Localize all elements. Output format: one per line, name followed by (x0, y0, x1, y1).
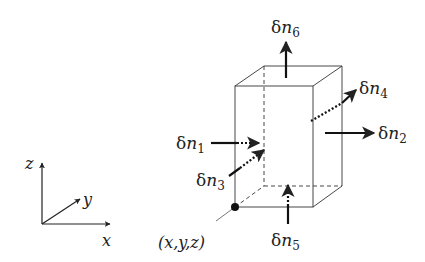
box-hidden-edge-bottom-left (235, 186, 264, 207)
flux-label-n3: δn3 (196, 170, 225, 193)
corner-point (231, 203, 239, 211)
box-top-face (235, 66, 342, 86)
flux-arrow-n3-dotted (240, 150, 264, 168)
box-front-face (235, 86, 313, 207)
flux-label-n5: δn5 (271, 230, 300, 253)
flux-label-n1: δn1 (176, 133, 205, 156)
y-axis-label: y (82, 190, 93, 209)
flux-arrow-n4-dotted (311, 103, 342, 121)
corner-label: (x,y,z) (158, 233, 205, 252)
x-axis-label: x (102, 231, 111, 250)
flux-label-n6: δn6 (271, 17, 300, 40)
flux-arrow-n3 (229, 168, 240, 176)
diagram-canvas: z x y (x,y,z) (0, 0, 425, 262)
coordinate-axes (42, 163, 110, 224)
z-axis-label: z (24, 154, 34, 173)
flux-label-n2: δn2 (378, 123, 407, 146)
y-axis-arrow (42, 199, 80, 224)
flux-arrow-n4 (342, 90, 356, 103)
flux-label-n4: δn4 (359, 78, 388, 101)
diagram-svg: z x y (x,y,z) (0, 0, 425, 262)
